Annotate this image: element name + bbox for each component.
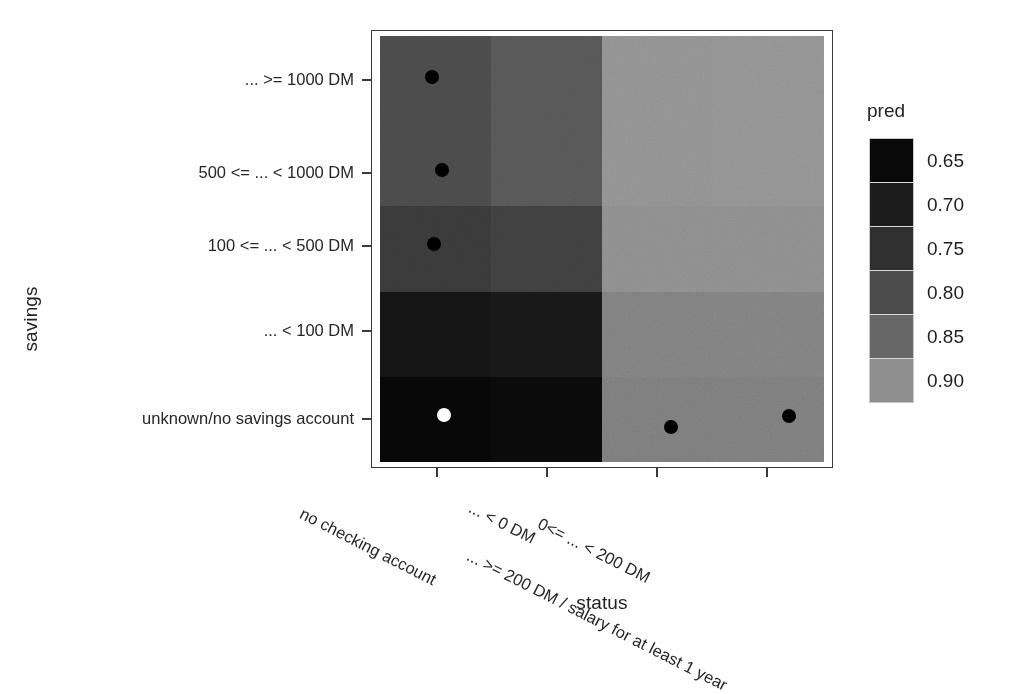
plot-panel xyxy=(371,30,833,468)
heatmap-cell xyxy=(380,377,491,462)
legend-swatch xyxy=(870,139,913,182)
legend-title: pred xyxy=(867,100,905,122)
legend-swatch xyxy=(870,314,913,358)
legend-swatch xyxy=(870,270,913,314)
legend-swatch xyxy=(870,358,913,402)
y-axis-tick xyxy=(362,245,371,247)
heatmap-cell xyxy=(713,377,824,462)
data-point xyxy=(435,163,449,177)
heatmap-cell xyxy=(602,292,713,377)
y-axis-tick xyxy=(362,418,371,420)
heatmap-cell xyxy=(491,377,602,462)
legend-value-label: 0.85 xyxy=(927,326,964,348)
legend-value-label: 0.65 xyxy=(927,150,964,172)
legend-value-label: 0.90 xyxy=(927,370,964,392)
x-axis-tick xyxy=(436,468,438,477)
y-axis-tick xyxy=(362,330,371,332)
y-axis-tick-label: 500 <= ... < 1000 DM xyxy=(48,163,354,182)
y-axis-tick-label: 100 <= ... < 500 DM xyxy=(48,236,354,255)
legend-value-label: 0.75 xyxy=(927,238,964,260)
x-axis-tick-label: ... >= 200 DM / salary for at least 1 ye… xyxy=(464,546,731,694)
legend-value-label: 0.80 xyxy=(927,282,964,304)
heatmap-cell xyxy=(491,206,602,291)
heatmap-cell xyxy=(713,36,824,121)
heatmap-cell xyxy=(491,121,602,206)
heatmap-cell xyxy=(602,206,713,291)
heatmap-cell xyxy=(491,36,602,121)
heatmap-cell xyxy=(713,292,824,377)
y-axis-tick xyxy=(362,79,371,81)
data-point xyxy=(437,408,451,422)
data-point xyxy=(427,237,441,251)
x-axis-tick-label: 0<= ... < 200 DM xyxy=(535,514,654,587)
x-axis-title: status xyxy=(371,592,833,614)
heatmap-cell xyxy=(380,121,491,206)
x-axis-tick xyxy=(656,468,658,477)
heatmap-grid xyxy=(380,36,824,462)
heatmap-cell xyxy=(602,36,713,121)
heatmap-cell xyxy=(602,121,713,206)
data-point xyxy=(425,70,439,84)
x-axis-tick-label: no checking account xyxy=(297,504,440,589)
x-axis-tick-label: ... < 0 DM xyxy=(466,498,539,548)
legend-swatch xyxy=(870,182,913,226)
heatmap-cell xyxy=(713,206,824,291)
legend-color-strip xyxy=(869,138,914,403)
heatmap-cell xyxy=(491,292,602,377)
data-point xyxy=(782,409,796,423)
data-point xyxy=(664,420,678,434)
legend-swatch xyxy=(870,226,913,270)
x-axis-tick xyxy=(546,468,548,477)
y-axis-tick-label: ... < 100 DM xyxy=(48,321,354,340)
y-axis-tick xyxy=(362,172,371,174)
x-axis-tick xyxy=(766,468,768,477)
heatmap-cell xyxy=(380,292,491,377)
y-axis-tick-label: ... >= 1000 DM xyxy=(48,70,354,89)
legend-value-label: 0.70 xyxy=(927,194,964,216)
heatmap-cell xyxy=(602,377,713,462)
y-axis-tick-label: unknown/no savings account xyxy=(48,409,354,428)
y-axis-title: savings xyxy=(18,0,44,638)
heatmap-cell xyxy=(713,121,824,206)
